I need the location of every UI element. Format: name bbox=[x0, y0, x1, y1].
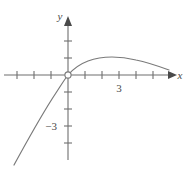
y-axis-label: y bbox=[57, 10, 63, 22]
y-axis-arrowhead bbox=[64, 16, 72, 26]
y-tick-label-minus3: −3 bbox=[45, 120, 57, 132]
open-point-origin-icon bbox=[65, 72, 71, 78]
graph-figure: x y 3 −3 bbox=[0, 0, 189, 169]
coordinate-plane-svg: x y 3 −3 bbox=[0, 0, 189, 169]
x-axis-label: x bbox=[177, 69, 183, 81]
x-axis-arrowhead bbox=[168, 71, 177, 79]
curve-path bbox=[14, 57, 169, 165]
x-tick-label-3: 3 bbox=[116, 82, 122, 94]
